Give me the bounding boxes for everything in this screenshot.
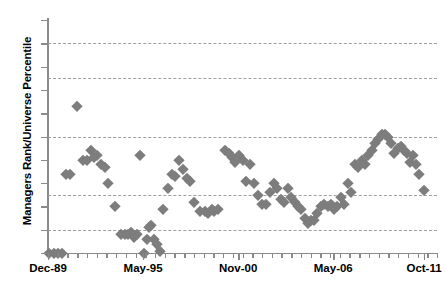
x-tick-mark [213,253,214,258]
x-tick-mark [243,253,244,258]
x-tick-mark [408,253,409,258]
x-tick-mark [418,253,419,258]
x-tick-mark [398,253,399,258]
x-tick-mark [106,253,107,258]
y-tick-mark-50 [41,137,47,138]
x-tick-mark [126,253,127,258]
x-tick-label-may-06: May-06 [314,262,353,274]
x-tick-mark [427,253,428,258]
x-tick-label-dec-89: Dec-89 [29,262,67,274]
x-tick-mark [116,253,117,258]
y-tick-mark-60 [41,160,47,161]
x-tick-mark [388,253,389,258]
data-point [135,150,146,161]
x-tick-mark [145,253,146,258]
x-tick-mark [184,253,185,258]
x-tick-mark [252,253,253,258]
x-tick-mark-major [333,253,334,260]
x-tick-mark-major [424,253,425,260]
x-tick-mark [311,253,312,258]
x-tick-label-nov-00: Nov-00 [219,262,257,274]
data-point [346,187,357,198]
data-point [109,201,120,212]
x-tick-mark [136,253,137,258]
x-tick-mark [233,253,234,258]
x-tick-mark [291,253,292,258]
x-tick-mark [379,253,380,258]
y-tick-mark-30 [41,90,47,91]
x-tick-mark [165,253,166,258]
plot-area [48,20,437,253]
x-tick-mark [155,253,156,258]
y-tick-mark-100 [41,253,47,254]
data-point [170,171,181,182]
x-tick-mark [437,253,438,258]
x-tick-mark-major [143,253,144,260]
x-tick-mark [87,253,88,258]
scatter-chart: Managers Rank/Universe Percentile 010203… [0,0,446,295]
y-axis-title: Managers Rank/Universe Percentile [21,16,33,246]
x-tick-label-oct-11: Oct-11 [406,262,441,274]
data-point [163,182,174,193]
x-tick-mark [369,253,370,258]
x-tick-mark [97,253,98,258]
data-point [189,196,200,207]
x-tick-mark [272,253,273,258]
y-tick-mark-0 [41,20,47,21]
x-tick-mark [281,253,282,258]
gridline-10 [48,43,437,44]
x-tick-mark [320,253,321,258]
x-tick-mark [67,253,68,258]
x-tick-mark-major [238,253,239,260]
gridline-90 [48,230,437,231]
x-tick-mark [58,253,59,258]
x-tick-mark [174,253,175,258]
gridline-25 [48,78,437,79]
data-point [71,101,82,112]
data-point [414,168,425,179]
data-point [103,178,114,189]
data-point [158,203,169,214]
x-tick-mark [301,253,302,258]
gridline-75 [48,195,437,196]
x-tick-mark [349,253,350,258]
y-tick-mark-20 [41,67,47,68]
x-tick-label-may-95: May-95 [124,262,163,274]
x-tick-mark [359,253,360,258]
x-tick-mark-major [48,253,49,260]
x-tick-mark [204,253,205,258]
x-tick-mark [330,253,331,258]
y-tick-mark-90 [41,230,47,231]
y-tick-mark-10 [41,43,47,44]
y-tick-mark-40 [41,113,47,114]
x-tick-mark [77,253,78,258]
y-tick-mark-70 [41,183,47,184]
x-tick-mark [262,253,263,258]
x-tick-mark [340,253,341,258]
x-tick-mark [223,253,224,258]
y-tick-mark-80 [41,206,47,207]
x-tick-mark [194,253,195,258]
data-point [245,159,256,170]
